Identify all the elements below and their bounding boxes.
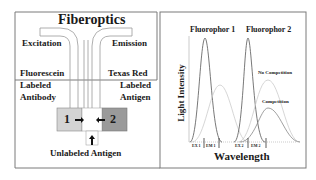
label-labeled-right: Labeled bbox=[120, 80, 151, 90]
label-texas-red: Texas Red bbox=[108, 68, 147, 78]
peak-label-fluorophor1: Fluorophor 1 bbox=[190, 25, 235, 34]
x-marker-em2: EM 2 bbox=[251, 143, 260, 148]
fluorophor1-emission-curve bbox=[192, 85, 248, 142]
y-axis-label: Light Intensity bbox=[176, 64, 186, 121]
title-fiberoptics: Fiberoptics bbox=[58, 12, 125, 28]
x-marker-em1: EM 1 bbox=[206, 143, 215, 148]
annotation-competition: Competition bbox=[262, 99, 289, 104]
label-unlabeled-antigen: Unlabeled Antigen bbox=[50, 148, 121, 158]
fluorophor1-excitation-curve bbox=[190, 38, 222, 142]
label-excitation: Excitation bbox=[22, 38, 62, 48]
x-marker-ex2: EX 2 bbox=[235, 143, 244, 148]
x-axis-label: Wavelength bbox=[214, 150, 270, 162]
peak-label-fluorophor2: Fluorophor 2 bbox=[246, 25, 291, 34]
label-emission: Emission bbox=[112, 38, 147, 48]
annotation-no-competition: No Competition bbox=[258, 70, 292, 75]
fluorophor2-emission-comp-curve bbox=[240, 108, 300, 142]
box2-label: 2 bbox=[110, 112, 116, 127]
x-marker-ex1: EX 1 bbox=[192, 143, 201, 148]
label-antibody: Antibody bbox=[20, 92, 56, 102]
box1-label: 1 bbox=[64, 112, 70, 127]
fluorophor2-emission-nocomp-curve bbox=[238, 80, 300, 142]
label-fluorescein: Fluorescein bbox=[20, 68, 64, 78]
label-antigen: Antigen bbox=[120, 92, 151, 102]
fiberoptics-panel bbox=[15, 12, 157, 145]
label-labeled-left: Labeled bbox=[20, 80, 51, 90]
spectrum-chart bbox=[189, 36, 300, 148]
